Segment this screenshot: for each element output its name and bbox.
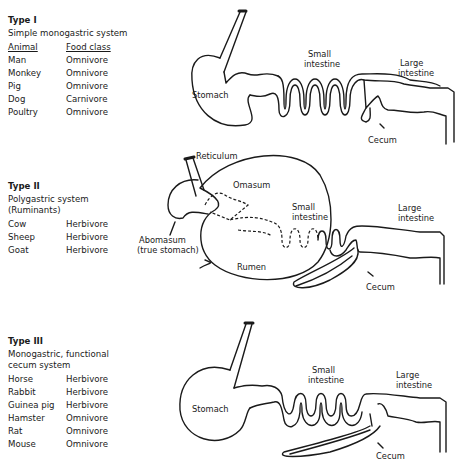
large-intestine-label-1: Large — [400, 58, 423, 68]
large-intestine-label-1: Large — [396, 370, 419, 380]
esophagus — [230, 324, 252, 388]
cecum-label: Cecum — [368, 135, 397, 145]
stomach-label: Stomach — [192, 90, 229, 100]
digestive-diagrams: Stomach Small intestine Large intestine … — [0, 0, 474, 468]
large-intestine-label-2: intestine — [398, 213, 434, 223]
small-intestine-label-1: Small — [312, 365, 335, 375]
cecum-pointer — [380, 124, 384, 128]
rumen-label: Rumen — [237, 262, 266, 272]
small-intestine-label-2: intestine — [292, 212, 328, 222]
abomasum-pointer-lower — [200, 260, 210, 268]
small-intestine-label-2: intestine — [308, 375, 344, 385]
large-intestine-label-2: intestine — [398, 68, 434, 78]
esophagus — [220, 12, 246, 72]
type-1-digestive-tract: Stomach Small intestine Large intestine … — [192, 11, 454, 145]
abomasum-pointer — [170, 222, 175, 235]
abomasum-label-1: Abomasum — [139, 235, 186, 245]
cecum-label: Cecum — [366, 282, 395, 292]
small-intestine — [250, 80, 454, 142]
omasum — [205, 193, 248, 220]
esophagus — [186, 158, 204, 196]
small-intestine-label-2: intestine — [304, 59, 340, 69]
type-3-digestive-tract: Stomach Small intestine Large intestine … — [180, 323, 446, 461]
large-intestine-label-2: intestine — [396, 380, 432, 390]
stomach-label: Stomach — [192, 404, 229, 414]
omasum-label: Omasum — [233, 180, 270, 190]
large-intestine-label-1: Large — [398, 203, 421, 213]
cecum — [361, 108, 370, 122]
small-intestine — [234, 385, 446, 452]
cecum-label: Cecum — [376, 451, 405, 461]
cecum-pointer — [378, 443, 383, 448]
reticulum-label: Reticulum — [196, 151, 238, 161]
type-2-digestive-tract: Reticulum Omasum Abomasum (true stomach)… — [137, 151, 444, 292]
cecum-pointer — [368, 272, 373, 276]
abomasum-label-2: (true stomach) — [137, 245, 199, 255]
small-intestine-label-1: Small — [292, 202, 315, 212]
small-intestine-label-1: Small — [308, 49, 331, 59]
cecum — [293, 248, 358, 288]
